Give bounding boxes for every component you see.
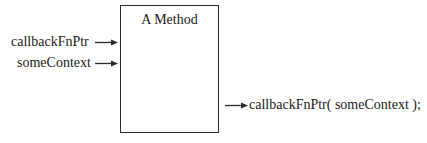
output-call-label: callbackFnPtr( someContext ); xyxy=(249,97,421,113)
arrow-right-icon xyxy=(95,39,118,46)
arrow-right-icon xyxy=(95,60,118,67)
method-title: A Method xyxy=(121,12,218,28)
input-label-callbackfnptr: callbackFnPtr xyxy=(11,34,89,50)
arrow-right-icon xyxy=(225,102,248,109)
input-label-somecontext: someContext xyxy=(17,55,91,71)
method-box: A Method xyxy=(120,5,219,133)
